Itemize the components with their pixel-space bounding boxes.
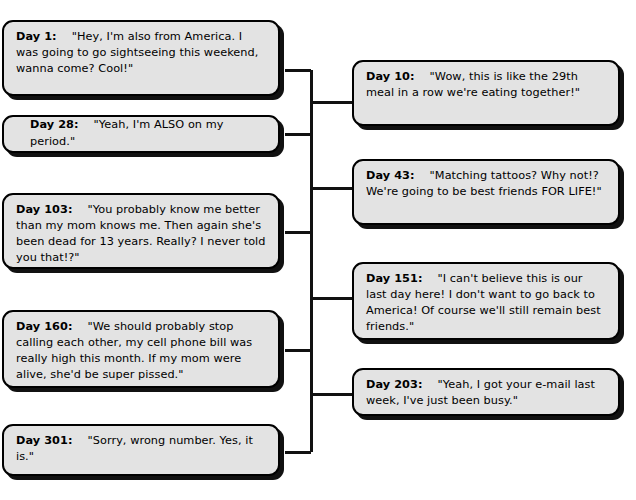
message-box-day-103: Day 103: "You probably know me better th… [2, 193, 280, 269]
day-label-day-10: Day 10: [366, 70, 426, 83]
bracket-diagram: Day 1: "Hey, I'm also from America. I wa… [0, 0, 636, 500]
message-box-day-160: Day 160: "We should probably stop callin… [2, 310, 280, 388]
day-label-day-151: Day 151: [366, 272, 434, 285]
day-label-day-103: Day 103: [16, 203, 84, 216]
message-box-day-10: Day 10: "Wow, this is like the 29th meal… [352, 60, 620, 126]
day-label-day-28: Day 28: [30, 118, 90, 131]
message-box-day-28: Day 28: "Yeah, I'm ALSO on my period." [2, 115, 280, 153]
message-box-day-301: Day 301: "Sorry, wrong number. Yes, it i… [2, 424, 280, 476]
day-label-day-1: Day 1: [16, 30, 68, 43]
message-box-day-43: Day 43: "Matching tattoos? Why not!? We'… [352, 159, 620, 225]
message-box-day-151: Day 151: "I can't believe this is our la… [352, 262, 620, 340]
day-label-day-43: Day 43: [366, 169, 426, 182]
message-box-day-1: Day 1: "Hey, I'm also from America. I wa… [2, 20, 280, 96]
message-box-day-203: Day 203: "Yeah, I got your e-mail last w… [352, 368, 620, 416]
day-label-day-160: Day 160: [16, 320, 84, 333]
day-label-day-301: Day 301: [16, 434, 84, 447]
day-label-day-203: Day 203: [366, 378, 434, 391]
